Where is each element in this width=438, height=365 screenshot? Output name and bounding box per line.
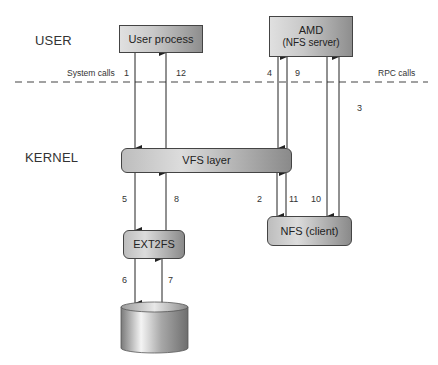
step-9-label: 9	[295, 68, 300, 78]
step-1-label: 1	[124, 68, 129, 78]
amd-node: AMD (NFS server)	[269, 16, 353, 57]
step-3-label: 3	[357, 103, 362, 113]
user-process-label: User process	[129, 33, 194, 46]
step-10-label: 10	[311, 194, 321, 204]
kernel-space-label: KERNEL	[25, 150, 78, 165]
step-5-label: 5	[122, 194, 127, 204]
step-6-label: 6	[122, 275, 127, 285]
user-space-label: USER	[35, 33, 72, 48]
system-calls-label: System calls	[67, 68, 115, 78]
step-12-label: 12	[176, 68, 186, 78]
vfs-layer-node: VFS layer	[121, 148, 292, 173]
amd-sublabel: (NFS server)	[282, 37, 339, 49]
step-2-label: 2	[257, 194, 262, 204]
step-4-label: 4	[267, 68, 272, 78]
ext2fs-label: EXT2FS	[133, 238, 175, 251]
rpc-calls-label: RPC calls	[378, 68, 415, 78]
disk-icon	[121, 302, 188, 353]
nfs-client-label: NFS (client)	[280, 225, 338, 238]
nfs-client-node: NFS (client)	[267, 216, 352, 246]
amd-label: AMD	[299, 24, 323, 37]
step-8-label: 8	[174, 194, 179, 204]
step-11-label: 11	[289, 194, 298, 204]
user-process-node: User process	[119, 25, 203, 53]
diagram-connectors	[0, 0, 438, 365]
ext2fs-node: EXT2FS	[123, 230, 185, 259]
vfs-layer-label: VFS layer	[182, 154, 230, 167]
step-7-label: 7	[168, 275, 173, 285]
